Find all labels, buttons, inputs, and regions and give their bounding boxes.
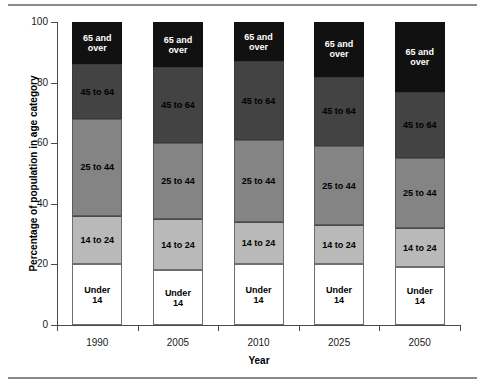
bar-segment-2050-age-25-to-44[interactable]: 25 to 44 [395,158,445,228]
bar-segment-2010-age-45-to-64[interactable]: 45 to 64 [234,61,284,140]
stacked-bar-2010[interactable]: Under 1414 to 2425 to 4445 to 6465 and o… [234,22,284,325]
x-axis-title: Year [57,355,461,366]
bar-segment-2005-age-65-and-over[interactable]: 65 and over [153,22,203,67]
bar-segment-2010-age-65-and-over[interactable]: 65 and over [234,22,284,61]
bottom-divider-rule [8,377,477,379]
x-tick-label-2005: 2005 [148,337,208,348]
bar-segment-2005-age-45-to-64[interactable]: 45 to 64 [153,67,203,143]
x-tick-mark [299,325,300,331]
bar-segment-2005-under-14[interactable]: Under 14 [153,270,203,325]
bar-segment-2025-age-25-to-44[interactable]: 25 to 44 [314,146,364,225]
bar-segment-1990-age-14-to-24[interactable]: 14 to 24 [72,216,122,264]
bar-segment-1990-age-45-to-64[interactable]: 45 to 64 [72,64,122,119]
figure-container: 020406080100 19902005201020252050 Percen… [0,0,485,388]
y-axis-title: Percentage of population in age category [28,19,39,329]
bar-segment-2010-age-25-to-44[interactable]: 25 to 44 [234,140,284,222]
bar-segment-2025-under-14[interactable]: Under 14 [314,264,364,325]
bar-segment-2025-age-45-to-64[interactable]: 45 to 64 [314,77,364,147]
plot-area: Under 1414 to 2425 to 4445 to 6465 and o… [57,22,460,325]
stacked-bar-1990[interactable]: Under 1414 to 2425 to 4445 to 6465 and o… [72,22,122,325]
bar-segment-2010-age-14-to-24[interactable]: 14 to 24 [234,222,284,264]
bar-segment-1990-age-65-and-over[interactable]: 65 and over [72,22,122,64]
x-tick-label-2010: 2010 [229,337,289,348]
x-tick-label-1990: 1990 [67,337,127,348]
x-tick-label-2025: 2025 [309,337,369,348]
stacked-bar-2005[interactable]: Under 1414 to 2425 to 4445 to 6465 and o… [153,22,203,325]
x-tick-mark [138,325,139,331]
bar-segment-1990-age-25-to-44[interactable]: 25 to 44 [72,119,122,216]
x-tick-mark [460,325,461,331]
bar-segment-2025-age-65-and-over[interactable]: 65 and over [314,22,364,77]
bar-segment-2050-age-65-and-over[interactable]: 65 and over [395,22,445,92]
bar-segment-2050-under-14[interactable]: Under 14 [395,267,445,325]
bar-segment-2010-under-14[interactable]: Under 14 [234,264,284,325]
bar-segment-2005-age-25-to-44[interactable]: 25 to 44 [153,143,203,219]
stacked-bar-2025[interactable]: Under 1414 to 2425 to 4445 to 6465 and o… [314,22,364,325]
bar-segment-2025-age-14-to-24[interactable]: 14 to 24 [314,225,364,264]
stacked-bar-2050[interactable]: Under 1414 to 2425 to 4445 to 6465 and o… [395,22,445,325]
x-tick-mark [218,325,219,331]
x-tick-label-2050: 2050 [390,337,450,348]
bar-segment-2005-age-14-to-24[interactable]: 14 to 24 [153,219,203,271]
x-tick-mark [379,325,380,331]
top-divider-rule [8,4,477,6]
bar-segment-1990-under-14[interactable]: Under 14 [72,264,122,325]
x-tick-mark [57,325,58,331]
bar-segment-2050-age-14-to-24[interactable]: 14 to 24 [395,228,445,267]
x-axis-line [57,325,461,326]
bar-segment-2050-age-45-to-64[interactable]: 45 to 64 [395,92,445,159]
